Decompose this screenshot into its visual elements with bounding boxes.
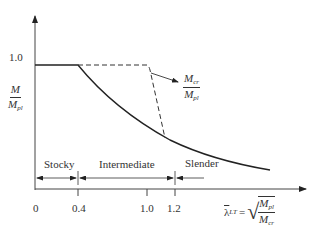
- x-tick-label-1.0: 1.0: [140, 203, 154, 214]
- x-tick-label-0.4: 0.4: [72, 203, 86, 214]
- x-label-den-sub: cr: [268, 219, 274, 227]
- y-tick-label: 1.0: [9, 52, 23, 63]
- region-slender-label: Slender: [185, 158, 219, 169]
- region-stocky-label: Stocky: [44, 159, 75, 170]
- mcr-label-den-sub: pl: [193, 94, 198, 102]
- x-label-den: M: [259, 213, 268, 225]
- x-tick-label-0: 0: [33, 203, 39, 214]
- lambda-sub: LT: [229, 208, 237, 216]
- y-axis-label-num: M: [10, 84, 21, 98]
- mcr-label-den: M: [184, 88, 193, 100]
- mcr-label-num: M: [184, 72, 193, 84]
- mcr-label-num-sub: cr: [193, 78, 199, 86]
- x-label-num-sub: pl: [268, 203, 273, 211]
- x-axis-label: λLT = √ Mpl Mcr: [224, 196, 275, 228]
- mcr-callout-arrow: [151, 73, 178, 82]
- equals-sign: =: [239, 206, 245, 218]
- x-tick-label-1.2: 1.2: [167, 203, 181, 214]
- mcr-label: Mcr Mpl: [183, 73, 200, 103]
- y-axis-label-den: M: [8, 98, 17, 110]
- y-axis-label-den-sub: pl: [17, 104, 22, 112]
- y-axis-label: M Mpl: [8, 84, 23, 112]
- design-curve: [35, 65, 270, 170]
- mcr-dashed-curve: [78, 65, 165, 138]
- region-intermediate-label: Intermediate: [99, 159, 155, 170]
